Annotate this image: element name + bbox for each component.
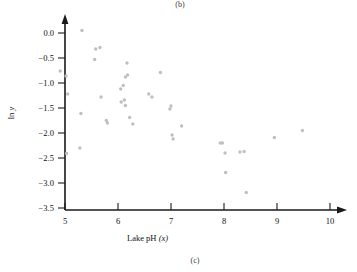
y-tick-group: 0.0−0.5−1.0−1.5−2.0−2.5−3.0−3.5 — [39, 28, 65, 213]
data-point — [125, 61, 128, 64]
data-point — [64, 74, 67, 77]
data-point — [273, 136, 276, 139]
data-point — [238, 150, 241, 153]
data-point — [94, 47, 97, 50]
y-tick-label: 0.0 — [43, 28, 54, 38]
data-point — [301, 129, 304, 132]
plot-axes — [62, 14, 347, 213]
y-axis-label-text: ln y — [6, 107, 16, 120]
y-tick-label: −1.0 — [39, 78, 54, 88]
x-tick-group: 5678910 — [63, 203, 334, 226]
data-point — [169, 104, 172, 107]
data-point — [65, 152, 68, 155]
data-point — [59, 69, 62, 72]
data-point — [98, 46, 101, 49]
data-point — [223, 151, 226, 154]
data-point — [93, 58, 96, 61]
data-point — [168, 107, 171, 110]
y-tick-label: −2.0 — [39, 128, 54, 138]
data-point — [123, 98, 126, 101]
data-point — [170, 133, 173, 136]
data-point — [122, 84, 125, 87]
data-point — [119, 87, 122, 90]
x-tick-label: 8 — [222, 216, 226, 226]
y-tick-label: −3.5 — [39, 203, 54, 213]
y-axis-arrow-icon — [62, 14, 69, 24]
data-point — [221, 141, 224, 144]
data-point — [66, 92, 69, 95]
x-tick-label: 5 — [63, 216, 67, 226]
x-tick-label: 7 — [169, 216, 173, 226]
y-axis-label: ln y — [6, 93, 16, 133]
y-tick-label: −3.0 — [39, 178, 54, 188]
data-point — [131, 122, 134, 125]
data-point-group — [59, 29, 305, 194]
data-point — [78, 146, 81, 149]
x-axis-label: Lake pH (x) — [127, 233, 168, 243]
data-point — [159, 71, 162, 74]
data-point — [126, 73, 129, 76]
data-point — [124, 104, 127, 107]
data-point — [79, 112, 82, 115]
scatter-plot: 5678910 0.0−0.5−1.0−1.5−2.0−2.5−3.0−3.5 — [0, 0, 357, 272]
data-point — [80, 29, 83, 32]
x-tick-label: 6 — [116, 216, 120, 226]
x-tick-label: 10 — [326, 216, 335, 226]
data-point — [171, 137, 174, 140]
x-axis-arrow-icon — [337, 207, 347, 214]
data-point — [106, 121, 109, 124]
x-axis-label-text: Lake pH (x) — [127, 233, 168, 243]
y-tick-label: −0.5 — [39, 53, 54, 63]
figure-panel-c: (b) 5678910 0.0−0.5−1.0−1.5−2.0−2.5−3.0−… — [0, 0, 357, 272]
data-point — [224, 171, 227, 174]
data-point — [99, 95, 102, 98]
data-point — [147, 92, 150, 95]
panel-label-c: (c) — [160, 256, 230, 265]
y-tick-label: −1.5 — [39, 103, 54, 113]
data-point — [180, 124, 183, 127]
data-point — [242, 150, 245, 153]
data-point — [245, 191, 248, 194]
data-point — [150, 95, 153, 98]
y-tick-label: −2.5 — [39, 153, 54, 163]
data-point — [128, 116, 131, 119]
data-point — [119, 100, 122, 103]
x-tick-label: 9 — [275, 216, 279, 226]
